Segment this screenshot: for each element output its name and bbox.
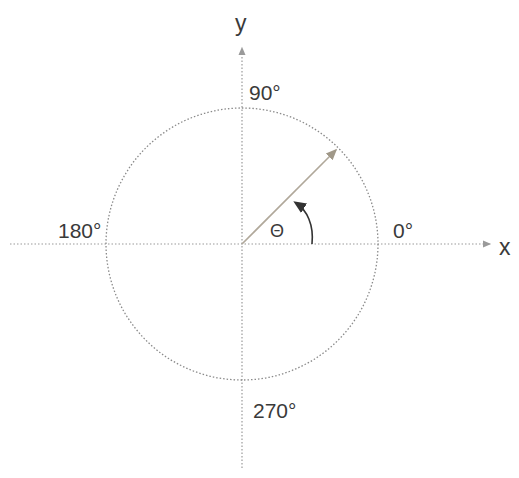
y-axis-label: y — [235, 12, 247, 35]
label-0-degrees: 0° — [393, 220, 413, 241]
x-axis-label: x — [499, 236, 511, 259]
label-270-degrees: 270° — [253, 400, 296, 421]
theta-symbol: Θ — [270, 222, 284, 240]
radius-ray — [242, 150, 336, 244]
label-90-degrees: 90° — [249, 82, 281, 103]
angle-arc-arrow-icon — [296, 203, 312, 244]
label-180-degrees: 180° — [58, 220, 101, 241]
